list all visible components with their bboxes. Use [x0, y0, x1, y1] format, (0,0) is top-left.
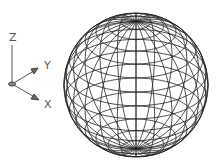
z-axis-label: Z: [9, 32, 17, 43]
y-axis-label: Y: [44, 60, 51, 71]
origin-marker-icon: [9, 82, 16, 86]
y-arrow-icon: [31, 68, 38, 74]
wireframe-sphere[interactable]: [64, 13, 208, 157]
x-arrow-icon: [31, 94, 39, 100]
x-axis-label: X: [44, 99, 52, 110]
ucs-icon: [9, 45, 40, 100]
drawing-viewport[interactable]: [0, 0, 216, 167]
